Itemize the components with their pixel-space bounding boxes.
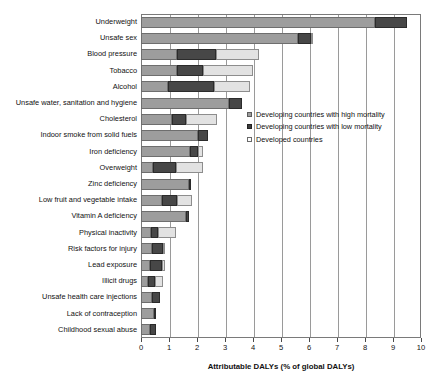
- stacked-bar: [141, 211, 189, 222]
- stacked-bar: [141, 146, 203, 157]
- x-axis-tick-label: 0: [139, 343, 143, 352]
- bar-segment-dev: [163, 243, 165, 254]
- bar-segment-dev: [198, 146, 202, 157]
- x-axis-tick-label: 4: [251, 343, 255, 352]
- bar-segment-high: [141, 33, 298, 44]
- bar-row: [141, 257, 421, 273]
- bar-row: [141, 289, 421, 305]
- legend: Developing countries with high mortality…: [247, 108, 385, 146]
- stacked-bar: [141, 308, 156, 319]
- legend-item-developed: Developed countries: [247, 133, 385, 146]
- x-axis-tick-label: 5: [279, 343, 283, 352]
- legend-swatch-icon-developed: [247, 137, 252, 142]
- stacked-bar: [141, 130, 208, 141]
- stacked-bar: [141, 243, 165, 254]
- y-axis-tick-label: Tobacco: [3, 63, 141, 79]
- bar-segment-low: [150, 324, 156, 335]
- y-axis-tick-label: Childhood sexual abuse: [3, 322, 141, 338]
- x-axis-tick-label: 9: [391, 343, 395, 352]
- bar-segment-low: [229, 98, 242, 109]
- x-axis-tick-label: 7: [335, 343, 339, 352]
- bar-segment-low: [150, 260, 162, 271]
- bar-segment-low: [152, 292, 160, 303]
- stacked-bar: [141, 17, 407, 28]
- x-axis-tick: [141, 338, 142, 342]
- bar-row: [141, 144, 421, 160]
- bar-row: [141, 30, 421, 46]
- y-axis-tick-label: Physical inactivity: [3, 225, 141, 241]
- stacked-bar: [141, 33, 313, 44]
- stacked-bar: [141, 81, 250, 92]
- bar-row: [141, 192, 421, 208]
- bar-segment-low: [168, 81, 214, 92]
- bar-segment-dev: [216, 49, 259, 60]
- bar-segment-dev: [186, 114, 217, 125]
- bar-segment-low: [154, 308, 156, 319]
- x-axis-tick-label: 2: [195, 343, 199, 352]
- bar-row: [141, 322, 421, 338]
- bar-segment-low: [298, 33, 311, 44]
- bar-segment-low: [153, 162, 176, 173]
- y-axis-tick-label: Lead exposure: [3, 257, 141, 273]
- y-axis-tick-label: Low fruit and vegetable intake: [3, 192, 141, 208]
- x-axis-tick: [421, 338, 422, 342]
- stacked-bar: [141, 179, 191, 190]
- bar-segment-low: [162, 195, 177, 206]
- bar-segment-dev: [158, 227, 176, 238]
- bar-segment-high: [141, 179, 189, 190]
- x-axis-tick: [337, 338, 338, 342]
- y-axis-tick-label: Zinc deficiency: [3, 176, 141, 192]
- bar-segment-dev: [203, 65, 253, 76]
- bar-row: [141, 79, 421, 95]
- bar-row: [141, 225, 421, 241]
- stacked-bar: [141, 276, 163, 287]
- bar-segment-high: [141, 276, 148, 287]
- bar-segment-low: [177, 65, 202, 76]
- bar-row: [141, 208, 421, 224]
- bar-segment-low: [152, 243, 163, 254]
- x-axis-tick: [225, 338, 226, 342]
- x-axis-tick: [281, 338, 282, 342]
- bar-segment-dev: [311, 33, 313, 44]
- y-axis-tick-label: Lack of contraception: [3, 306, 141, 322]
- x-axis-tick-label: 3: [223, 343, 227, 352]
- bar-row: [141, 306, 421, 322]
- y-axis-tick-label: Unsafe sex: [3, 30, 141, 46]
- bar-segment-high: [141, 308, 154, 319]
- y-axis-tick-label: Vitamin A deficiency: [3, 208, 141, 224]
- bar-segment-low: [186, 211, 189, 222]
- bar-segment-high: [141, 227, 151, 238]
- bar-segment-high: [141, 243, 152, 254]
- x-axis-tick: [365, 338, 366, 342]
- x-axis-tick-label: 10: [417, 343, 425, 352]
- y-axis-tick-label: Unsafe health care injections: [3, 289, 141, 305]
- x-axis-tick: [309, 338, 310, 342]
- x-axis-tick-label: 1: [167, 343, 171, 352]
- bar-row: [141, 160, 421, 176]
- y-axis-tick-label: Risk factors for injury: [3, 241, 141, 257]
- y-axis-tick-label: Illicit drugs: [3, 273, 141, 289]
- bar-segment-high: [141, 114, 172, 125]
- bar-segment-high: [141, 195, 162, 206]
- bar-segment-high: [141, 49, 177, 60]
- stacked-bar: [141, 65, 253, 76]
- stacked-bar: [141, 292, 160, 303]
- bar-segment-low: [190, 146, 198, 157]
- bar-row: [141, 176, 421, 192]
- bar-segment-high: [141, 260, 150, 271]
- stacked-bar: [141, 49, 259, 60]
- bar-segment-high: [141, 17, 375, 28]
- bar-row: [141, 14, 421, 30]
- y-axis-tick-label: Unsafe water, sanitation and hygiene: [3, 95, 141, 111]
- bar-segment-low: [151, 227, 158, 238]
- y-axis-tick-label: Indoor smoke from solid fuels: [3, 127, 141, 143]
- bar-segment-low: [189, 179, 191, 190]
- legend-label-high-mortality: Developing countries with high mortality: [256, 110, 385, 119]
- x-axis-tick: [393, 338, 394, 342]
- y-axis-tick-label: Alcohol: [3, 79, 141, 95]
- legend-item-high-mortality: Developing countries with high mortality: [247, 108, 385, 121]
- bar-segment-low: [148, 276, 155, 287]
- bar-segment-dev: [214, 81, 250, 92]
- bar-row: [141, 273, 421, 289]
- legend-item-low-mortality: Developing countries with low mortality: [247, 121, 385, 134]
